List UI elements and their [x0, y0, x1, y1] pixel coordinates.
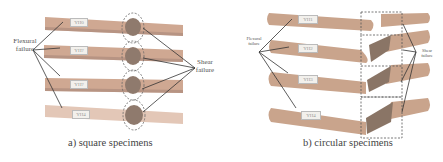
specimen-tag: YH2	[298, 44, 318, 53]
specimen-tag: YH1	[298, 15, 318, 24]
shear-failure-label: Shear failure	[192, 58, 218, 74]
specimen-tag: YH?	[70, 46, 88, 55]
caption-b: b) circular specimens	[303, 137, 393, 148]
specimen-tag: YH4	[72, 110, 90, 119]
flexural-failure-label: Flexural failure	[244, 36, 264, 46]
specimen-tag: YH?	[70, 80, 88, 89]
flexural-failure-label: Flexural failure	[10, 37, 40, 53]
panel-circular-specimens: YH1 YH2 YH3 YH4 Flexural failure Shear f…	[221, 0, 443, 162]
specimen-tag: YH0	[70, 18, 88, 27]
shear-failure-label: Shear failure	[417, 48, 437, 58]
specimen-tag: YH4	[301, 111, 321, 120]
specimen-tag: YH3	[298, 75, 318, 84]
caption-a: a) square specimens	[68, 137, 153, 148]
panel-square-specimens: YH0 YH? YH? YH4 Flexural failure Shear f…	[0, 0, 221, 162]
